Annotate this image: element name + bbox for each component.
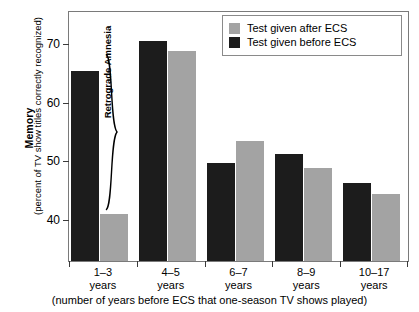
bar-before-ecs-1 [71,71,99,261]
bar-after-ecs-1 [100,214,128,261]
bar-after-ecs-3 [236,141,264,261]
y-axis-subtitle-text: (percent of TV show titles correctly rec… [32,17,43,215]
y-axis-tick-label: 40 [47,213,60,227]
x-category-unit: years [334,279,414,292]
bar-chart-figure: Memory (percent of TV show titles correc… [0,0,419,312]
x-axis-title: (number of years before ECS that one-sea… [0,294,419,306]
bar-before-ecs-5 [343,183,371,261]
legend-label-before-ecs: Test given before ECS [247,36,356,48]
bar-before-ecs-2 [139,41,167,261]
x-axis-category-label: 10–17years [334,266,414,292]
chart-legend: Test given after ECS Test given before E… [222,15,402,56]
retrograde-amnesia-label: Retrograde Amnesia [102,12,116,132]
legend-label-after-ecs: Test given after ECS [247,22,347,34]
bar-after-ecs-5 [372,194,400,261]
x-category-range: 10–17 [334,266,414,279]
legend-item-before-ecs: Test given before ECS [229,36,395,48]
bar-before-ecs-4 [275,154,303,261]
y-axis-tick-label: 50 [47,154,60,168]
bar-before-ecs-3 [207,163,235,261]
y-axis-tick [63,161,69,162]
bar-after-ecs-4 [304,168,332,261]
bar-after-ecs-2 [168,51,196,261]
y-axis-tick [63,103,69,104]
y-axis-tick-label: 70 [47,37,60,51]
y-axis-subtitle: (percent of TV show titles correctly rec… [29,0,45,241]
y-axis-tick [63,44,69,45]
y-axis-tick-label: 60 [47,96,60,110]
legend-swatch-after-ecs [229,23,240,34]
y-axis-tick [63,220,69,221]
legend-item-after-ecs: Test given after ECS [229,22,395,34]
legend-swatch-before-ecs [229,37,240,48]
